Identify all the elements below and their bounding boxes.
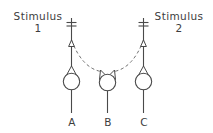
collateral-left-dashed-path xyxy=(72,40,102,72)
collateral-right-branch-arrowhead xyxy=(141,40,147,47)
collateral-branch-left xyxy=(69,40,101,72)
collateral-left-branch-arrowhead xyxy=(69,40,75,47)
neuron-a xyxy=(63,66,79,113)
neuron-b-label: B xyxy=(100,116,116,128)
neuron-c-soma xyxy=(135,73,151,89)
stimulus-2-label: Stimulus 2 xyxy=(150,10,208,34)
neuron-a-label: A xyxy=(64,116,80,128)
collateral-branch-right xyxy=(114,40,146,72)
neuron-b-soma xyxy=(99,74,115,90)
neuron-b xyxy=(99,70,115,113)
neuron-a-soma xyxy=(63,73,79,89)
stimulus-1-label: Stimulus 1 xyxy=(9,10,67,34)
stimulus-2-label-number: 2 xyxy=(150,22,208,34)
neuron-c xyxy=(135,66,151,113)
stimulus-1-label-number: 1 xyxy=(9,22,67,34)
stimulus-1-label-word: Stimulus xyxy=(9,10,67,22)
collateral-right-dashed-path xyxy=(114,40,144,72)
neuron-c-label: C xyxy=(136,116,152,128)
neural-circuit-diagram: Stimulus 1 Stimulus 2 A B C xyxy=(0,0,213,133)
stimulus-2-label-word: Stimulus xyxy=(150,10,208,22)
